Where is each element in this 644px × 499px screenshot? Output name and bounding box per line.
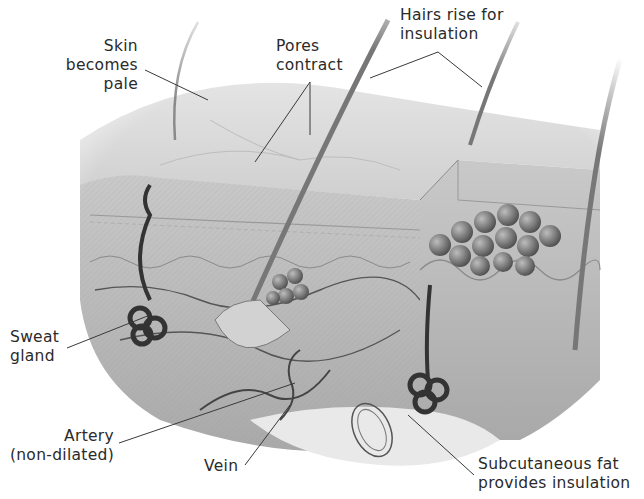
label-skin-becomes-pale: Skin becomes pale xyxy=(60,37,138,94)
label-pores-contract: Pores contract xyxy=(276,37,376,75)
label-vein: Vein xyxy=(204,457,264,476)
label-subcutaneous-fat: Subcutaneous fat provides insulation xyxy=(478,455,644,493)
label-sweat-gland: Sweat gland xyxy=(10,328,80,366)
label-artery: Artery (non-dilated) xyxy=(2,427,114,465)
label-hairs-rise: Hairs rise for insulation xyxy=(400,6,550,44)
